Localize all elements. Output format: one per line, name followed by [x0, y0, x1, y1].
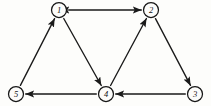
- node-label-3: 3: [192, 89, 197, 99]
- graph-node-5[interactable]: 5: [9, 87, 24, 102]
- graph-edge-4-to-2: [111, 19, 147, 86]
- graph-figure: 12345: [0, 0, 211, 106]
- graph-node-2[interactable]: 2: [144, 3, 159, 18]
- graph-canvas: 12345: [0, 0, 211, 106]
- graph-edge-5-to-1: [20, 19, 54, 86]
- graph-edge-1-to-4: [64, 18, 102, 85]
- graph-node-4[interactable]: 4: [99, 87, 114, 102]
- edge-layer: [20, 10, 190, 94]
- graph-edge-2-to-3: [156, 19, 191, 86]
- graph-node-1[interactable]: 1: [52, 3, 67, 18]
- graph-node-3[interactable]: 3: [188, 87, 203, 102]
- node-label-1: 1: [57, 5, 61, 15]
- node-label-5: 5: [14, 89, 18, 99]
